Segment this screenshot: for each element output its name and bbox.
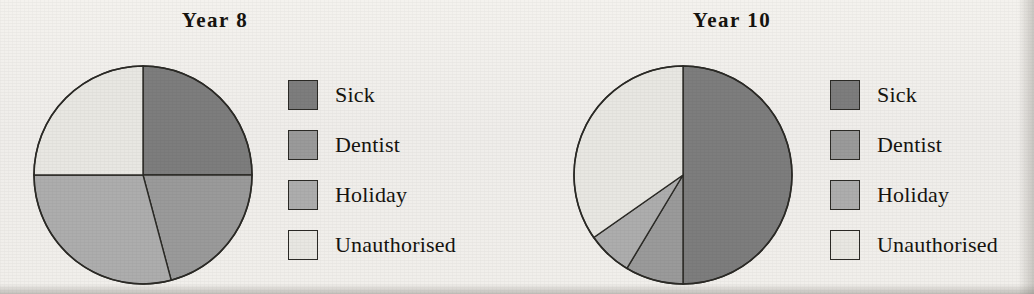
legend-item[interactable]: Dentist	[830, 120, 998, 170]
chart-panel-year-8: Year 8 Sick Dentist Holiday Unaut	[0, 0, 517, 294]
pie-slices-year-8	[34, 66, 252, 284]
legend-swatch-dentist-icon	[288, 130, 318, 160]
legend-label-unauthorised: Unauthorised	[335, 232, 456, 258]
legend-label-dentist: Dentist	[335, 132, 400, 158]
legend-swatch-dentist-icon	[830, 130, 860, 160]
legend-item[interactable]: Unauthorised	[830, 220, 998, 270]
pie-slice-sick[interactable]	[683, 66, 792, 284]
legend-item[interactable]: Sick	[830, 70, 998, 120]
legend-swatch-unauthorised-icon	[288, 230, 318, 260]
chart-panel-year-10: Year 10 Sick Dentist Holiday Unaut	[517, 0, 1034, 294]
legend-label-sick: Sick	[335, 82, 375, 108]
legend-swatch-holiday-icon	[288, 180, 318, 210]
chart-title-year-10: Year 10	[517, 8, 947, 33]
pie-slice-sick[interactable]	[143, 66, 252, 175]
legend-item[interactable]: Dentist	[288, 120, 456, 170]
pie-chart-year-8	[33, 65, 253, 285]
legend-item[interactable]: Sick	[288, 70, 456, 120]
legend-year-10: Sick Dentist Holiday Unauthorised	[830, 70, 998, 270]
legend-label-unauthorised: Unauthorised	[877, 232, 998, 258]
legend-item[interactable]: Holiday	[288, 170, 456, 220]
pie-chart-year-10	[573, 65, 793, 285]
pie-svg-year-8	[33, 65, 253, 285]
pie-svg-year-10	[573, 65, 793, 285]
legend-swatch-sick-icon	[288, 80, 318, 110]
legend-label-sick: Sick	[877, 82, 917, 108]
legend-swatch-sick-icon	[830, 80, 860, 110]
legend-item[interactable]: Holiday	[830, 170, 998, 220]
legend-item[interactable]: Unauthorised	[288, 220, 456, 270]
pie-slice-unauthorised[interactable]	[34, 66, 143, 175]
legend-label-holiday: Holiday	[335, 182, 407, 208]
pie-slices-year-10	[574, 66, 792, 284]
legend-label-holiday: Holiday	[877, 182, 949, 208]
legend-swatch-holiday-icon	[830, 180, 860, 210]
legend-label-dentist: Dentist	[877, 132, 942, 158]
legend-swatch-unauthorised-icon	[830, 230, 860, 260]
figure-pie-charts: Year 8 Sick Dentist Holiday Unaut	[0, 0, 1034, 294]
chart-title-year-8: Year 8	[0, 8, 430, 33]
legend-year-8: Sick Dentist Holiday Unauthorised	[288, 70, 456, 270]
